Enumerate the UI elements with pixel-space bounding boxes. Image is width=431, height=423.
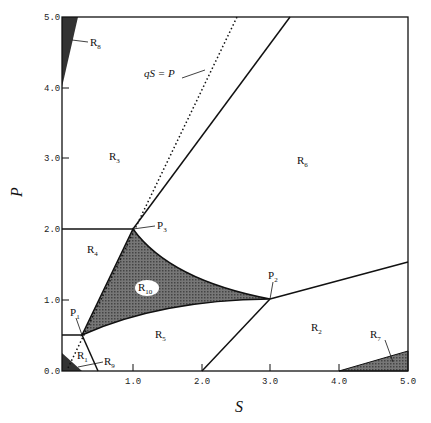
region-r9-label: R9 [104,355,115,370]
region-r1-label: R1 [77,349,88,364]
region-r3-label: R3 [109,150,120,165]
dotted-line-label: qS = P [144,67,175,79]
y-tick-1: 1.0 [44,296,60,306]
x-tick-1: 1.0 [125,377,141,387]
x-tick-5: 5.0 [400,377,416,387]
y-tick-3: 3.0 [44,154,60,164]
x-tick-3: 3.0 [262,377,278,387]
point-p3-label: P3 [157,219,167,234]
point-p1-label: P1 [70,306,80,321]
annotation-leader [182,70,205,78]
y-axis-label: P [8,187,25,198]
x-axis-label: S [235,398,243,415]
region-r10-shaded [82,229,270,335]
x-tick-4: 4.0 [331,377,347,387]
region-r7-shaded [339,351,408,371]
y-tick-2: 2.0 [44,225,60,235]
phase-diagram: 0.0 1.0 2.0 3.0 4.0 5.0 1.0 2.0 3.0 4.0 … [0,0,431,423]
y-tick-0: 0.0 [44,367,60,377]
region-r4-label: R4 [87,243,98,258]
point-p2-label: P2 [268,269,278,284]
region-r8-label: R8 [90,36,101,51]
y-tick-5: 5.0 [44,13,60,23]
region-r6-label: R6 [297,154,308,169]
region-r2-label: R2 [311,321,322,336]
region-r5-label: R5 [155,328,166,343]
x-tick-2: 2.0 [194,377,210,387]
y-tick-4: 4.0 [44,84,60,94]
region-r7-label: R7 [370,328,381,343]
region-r8-shaded [62,17,78,87]
